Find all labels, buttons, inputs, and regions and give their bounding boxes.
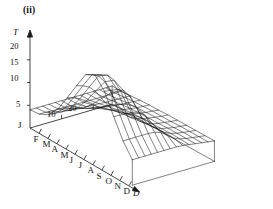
t-axis-tick-10: 10 [10,74,19,83]
month-label-9: O [106,177,113,186]
t-axis-tick-15: 15 [10,58,19,67]
month-label-10: N [115,182,122,191]
panel-label: (ii) [23,6,35,16]
month-label-6: J [79,161,83,170]
month-label-5: J [70,156,74,165]
wireframe-surface-plot [0,0,273,209]
month-label-3: A [52,145,59,154]
surface-mesh [30,75,214,186]
month-label-8: S [97,172,102,181]
d-axis-tick-20: 20 [68,104,77,113]
month-label-4: M [61,151,69,160]
month-label-7: A [88,166,95,175]
t-axis-tick-5: 5 [16,100,20,109]
month-label-11: D [124,187,131,196]
origin-label-january: J [18,121,22,130]
d-axis-tick-10: 10 [47,110,56,119]
d-axis-name: D [133,189,140,198]
month-label-2: M [43,140,51,149]
month-label-1: F [34,135,39,144]
t-axis-tick-20: 20 [10,42,19,51]
t-axis-name: T [13,28,18,37]
figure-panel: (ii) T 20 15 10 5 J 10 20 D FMAMJJASOND [0,0,273,209]
